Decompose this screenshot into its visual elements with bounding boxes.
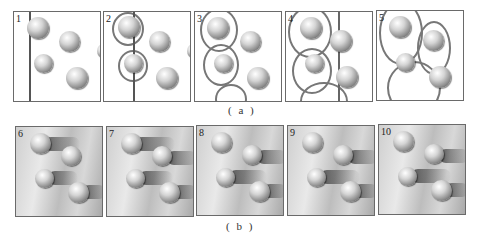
sphere: [211, 132, 232, 153]
sphere: [398, 167, 417, 186]
sphere: [66, 67, 88, 89]
panel-label: 5: [379, 12, 384, 23]
sphere: [159, 182, 180, 203]
panel-5: 5: [376, 10, 464, 101]
panel-1: 1: [13, 11, 101, 102]
panel-label: 2: [106, 13, 111, 24]
sphere: [156, 67, 178, 89]
sphere: [340, 181, 361, 202]
sphere: [149, 31, 170, 52]
sphere: [393, 131, 414, 152]
sphere: [396, 53, 415, 72]
caption-b: ( b ): [226, 220, 254, 232]
panel-label: 10: [381, 126, 391, 137]
sphere: [305, 54, 324, 73]
sphere: [118, 16, 140, 38]
sphere: [389, 16, 411, 38]
sphere: [431, 180, 452, 201]
panel-8: 8: [196, 125, 284, 216]
panel-label: 9: [290, 127, 295, 138]
sphere: [27, 17, 49, 39]
sphere: [30, 133, 51, 154]
sphere: [242, 145, 262, 165]
reflected-wave: [215, 84, 247, 102]
sphere: [240, 31, 261, 52]
sphere: [300, 17, 322, 39]
panel-label: 1: [16, 13, 21, 24]
panel-label: 6: [18, 128, 23, 139]
sphere: [336, 66, 358, 88]
sphere: [247, 67, 269, 89]
sphere: [121, 133, 142, 154]
panel-9: 9: [287, 125, 375, 216]
panel-6: 6: [15, 126, 103, 217]
sphere: [307, 168, 326, 187]
sphere: [187, 44, 191, 58]
sphere: [333, 145, 353, 165]
sphere: [207, 17, 229, 39]
panel-4: 4: [285, 11, 373, 102]
caption-a: ( a ): [228, 104, 256, 116]
sphere: [68, 182, 89, 203]
sphere: [429, 66, 451, 88]
sphere: [424, 144, 444, 164]
sphere: [423, 30, 444, 51]
sphere: [152, 146, 172, 166]
sphere: [61, 146, 81, 166]
sphere: [35, 169, 54, 188]
sphere: [97, 44, 101, 58]
panel-label: 4: [288, 13, 293, 24]
sphere: [249, 181, 270, 202]
panel-2: 2: [103, 11, 191, 102]
sphere: [124, 54, 143, 73]
panel-3: 3: [194, 11, 282, 102]
sphere: [34, 54, 53, 73]
sphere: [330, 30, 352, 52]
sphere: [214, 54, 233, 73]
sphere: [302, 132, 323, 153]
panel-label: 8: [199, 127, 204, 138]
sphere: [59, 31, 80, 52]
panel-label: 3: [197, 13, 202, 24]
shock-front: [338, 12, 340, 101]
panel-10: 10: [378, 124, 466, 215]
panel-7: 7: [106, 126, 194, 217]
panel-label: 7: [109, 128, 114, 139]
sphere: [216, 168, 235, 187]
sphere: [126, 169, 145, 188]
